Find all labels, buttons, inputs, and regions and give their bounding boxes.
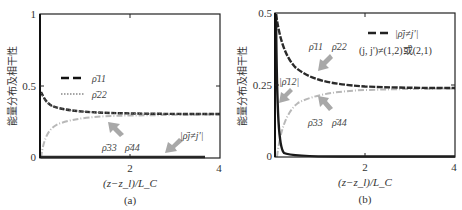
y-tick-05-b: 0.5 [258,7,272,19]
figure: 能量分布及相干性 1 0.5 0 2 4 (z−z_l)/L_C (a) ρ̄1… [0,0,462,210]
y-tick-0-b: 0 [267,150,273,162]
arrow-rho33-icon [108,122,124,137]
annotation-rho12-b: |ρ̄12| [279,76,299,87]
y-tick-0-a: 0 [31,151,37,163]
curve-coherence-b [276,14,455,157]
legend-condition: (j, j')≠(1,2)或(2,1) [359,45,432,57]
x-tick-2-b: 2 [362,161,368,173]
curve-rho33-rho44-b [277,89,455,158]
legend-label-rho22: ρ̄22 [91,89,107,100]
x-axis-label-a: (z−z_l)/L_C [103,177,158,190]
panel-a: 能量分布及相干性 1 0.5 0 2 4 (z−z_l)/L_C (a) ρ̄1… [6,8,222,207]
y-tick-05-a: 0.5 [22,80,36,92]
caption-b: (b) [359,193,372,206]
x-tick-2-a: 2 [127,162,133,174]
y-tick-1-a: 1 [31,8,37,20]
y-axis-label-a: 能量分布及相干性 [6,46,18,126]
annotation-rho33-b: ρ̄33 [307,117,323,128]
caption-a: (a) [124,194,137,207]
annotation-rho33-a: ρ̄33 [101,142,117,153]
curve-rho11-rho22-a [41,92,220,114]
annotation-coherence-a: |ρ̄j≠j'| [180,130,203,141]
x-tick-4-a: 4 [216,162,222,174]
annotation-rho44-b: ρ̄44 [331,117,347,128]
x-tick-4-b: 4 [451,161,457,173]
arrow-rho12-icon [279,88,293,103]
arrow-rho33-b-icon [318,96,333,111]
x-axis-label-b: (z−z_l)/L_C [338,176,393,189]
annotation-rho11-b: ρ̄11 [308,41,323,52]
arrow-rho11-icon [318,54,333,71]
y-tick-025-b: 0.25 [253,79,273,91]
legend-label-coherence: |ρ̄j≠j'| [395,28,418,39]
y-axis-label-b: 能量分布及相干性 [236,46,248,126]
legend-label-rho11: ρ̄11 [91,73,106,84]
panel-b: 能量分布及相干性 0.5 0.25 0 2 4 (z−z_l)/L_C (b) … [236,7,457,206]
plot-frame-b [275,13,455,157]
annotation-rho22-b: ρ̄22 [331,41,347,52]
annotation-rho44-a: ρ̄44 [124,142,140,153]
